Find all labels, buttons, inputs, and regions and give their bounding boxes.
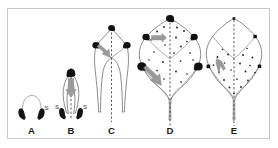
stage-label-a: A <box>28 125 35 136</box>
stage-c-lateral-gland-right-lobe <box>123 45 127 49</box>
stage-d-group: D <box>137 15 203 136</box>
stage-e-group: E <box>206 17 261 136</box>
stage-label-e: E <box>231 125 237 136</box>
stage-a-apex-arch <box>22 96 41 111</box>
stage-a-group: S A <box>17 96 48 137</box>
leaf-development-diagram: S A S S B <box>0 0 278 148</box>
stage-d-gland-lower-right-lobe <box>194 67 198 71</box>
stage-label-c: C <box>108 125 115 136</box>
stage-e-gland-apex <box>233 17 236 20</box>
stage-c-apical-gland-lobe <box>112 28 115 31</box>
stage-b-stipule-marker-right: S <box>83 104 87 110</box>
stage-b-stipule-marker-left: S <box>55 104 59 110</box>
stage-d-apical-gland-lobe <box>170 19 174 23</box>
stage-c-group: C <box>92 25 130 136</box>
stage-b-apical-gland-lobe-b <box>71 73 75 77</box>
stage-b-apical-gland-lobe-a <box>66 73 70 77</box>
stage-e-gland-upper-right <box>253 35 256 38</box>
stage-label-d: D <box>167 125 174 136</box>
stage-a-stipule-marker: S <box>44 105 48 111</box>
stage-b-apical-gland-lobe-c <box>69 68 73 72</box>
stage-b-group: S S B <box>55 68 87 136</box>
stage-e-gland-lower-left <box>207 65 211 69</box>
stage-d-gland-upper-right-lobe <box>191 37 194 40</box>
stage-d-gland-upper-left-lobe <box>146 37 149 40</box>
figure-root: S A S S B <box>0 0 278 148</box>
stage-label-b: B <box>68 125 75 136</box>
stage-e-gland-lower-right <box>258 65 261 68</box>
